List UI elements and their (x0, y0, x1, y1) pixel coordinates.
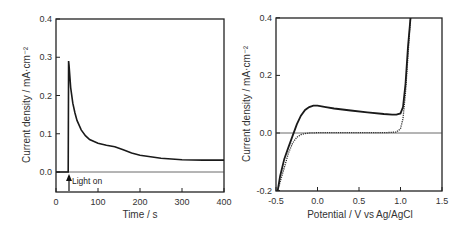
x-tick-label: 1.0 (394, 196, 407, 206)
plot-frame-left (56, 19, 224, 192)
y-tick-label: 0.1 (39, 129, 52, 139)
x-axis-ticks-right: -0.50.00.51.01.5 (268, 187, 448, 206)
light-on-annotation: Light on (66, 174, 103, 191)
y-tick-label: 0.2 (259, 70, 272, 80)
x-tick-label: 400 (216, 197, 231, 207)
y-axis-label-left: Current density / mA·cm⁻² (21, 46, 32, 163)
y-axis-ticks-left: 0.00.10.20.30.4 (39, 14, 60, 177)
y-axis-label-right: Current density / mA·cm⁻² (241, 45, 252, 162)
x-tick-label: 100 (90, 197, 105, 207)
y-tick-label: 0.0 (259, 128, 272, 138)
x-tick-label: 300 (174, 197, 189, 207)
x-tick-label: 200 (132, 197, 147, 207)
y-tick-label: 0.2 (39, 91, 52, 101)
x-tick-label: 0.5 (353, 196, 366, 206)
light-on-label: Light on (72, 176, 103, 186)
x-axis-label-right: Potential / V vs Ag/AgCl (307, 209, 413, 220)
dark-current-curve (278, 18, 411, 191)
y-tick-label: 0.3 (39, 52, 52, 62)
photocurrent-curve (56, 61, 224, 172)
light-current-curve (278, 18, 411, 191)
y-tick-label: 0.4 (39, 14, 52, 24)
x-tick-label: -0.5 (268, 196, 284, 206)
y-tick-label: 0.0 (39, 167, 52, 177)
plot-frame-right (276, 18, 442, 191)
voltammetry-panel: -0.20.00.20.4 -0.50.00.51.01.5 Potential… (241, 13, 448, 220)
x-tick-label: 0.0 (311, 196, 324, 206)
x-tick-label: 0 (53, 197, 58, 207)
x-axis-ticks-left: 0100200300400 (53, 188, 231, 207)
x-tick-label: 1.5 (436, 196, 449, 206)
y-tick-label: 0.4 (259, 13, 272, 23)
x-axis-label-left: Time / s (122, 209, 157, 220)
chronoamperometry-panel: 0.00.10.20.30.4 0100200300400 Light on T… (21, 14, 232, 220)
figure-canvas: 0.00.10.20.30.4 0100200300400 Light on T… (0, 0, 470, 235)
y-tick-label: -0.2 (256, 186, 272, 196)
